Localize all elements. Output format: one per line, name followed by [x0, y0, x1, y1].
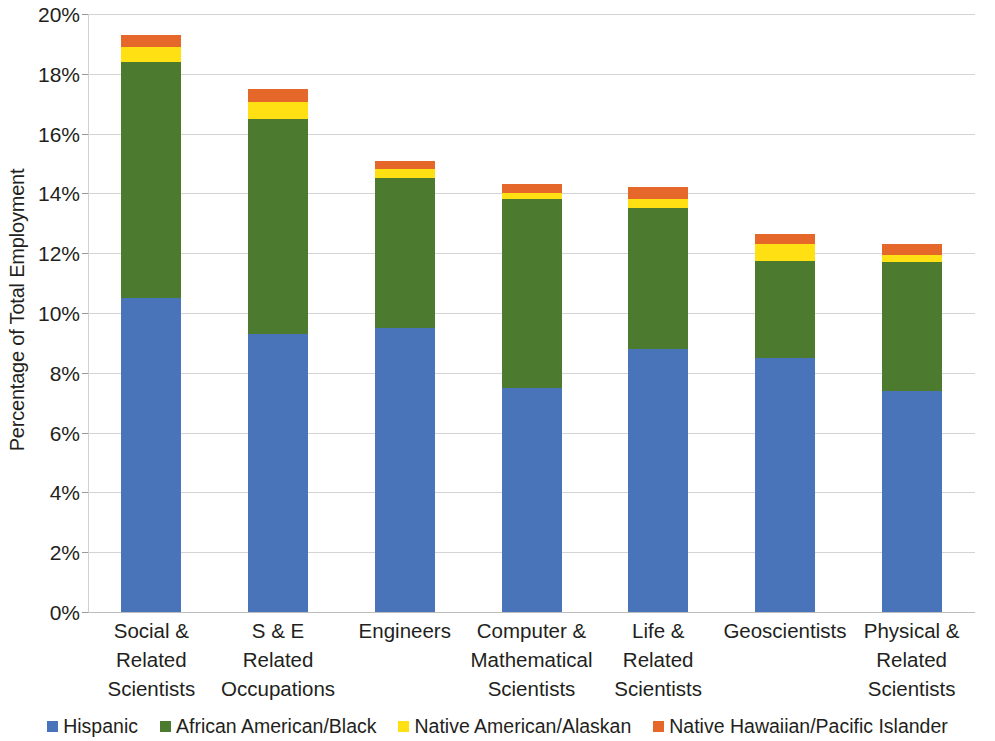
- bar-segment[interactable]: [121, 62, 181, 298]
- x-axis-label-line: Computer &: [468, 616, 595, 645]
- y-tick-label: 16%: [14, 123, 88, 144]
- bar-segment[interactable]: [502, 184, 562, 193]
- bar-group[interactable]: [628, 14, 688, 612]
- x-axis-label-line: Scientists: [88, 674, 215, 703]
- bar-segment[interactable]: [248, 89, 308, 102]
- x-axis-label-line: Mathematical: [468, 645, 595, 674]
- y-tick-label: 6%: [14, 422, 88, 443]
- bars-layer: [88, 14, 975, 612]
- bar-segment[interactable]: [375, 328, 435, 612]
- chart-legend: HispanicAfrican American/BlackNative Ame…: [0, 712, 995, 741]
- legend-item-label: Native Hawaiian/Pacific Islander: [669, 717, 948, 737]
- y-tick-label: 0%: [14, 602, 88, 623]
- bar-group[interactable]: [248, 14, 308, 612]
- bar-segment[interactable]: [628, 208, 688, 349]
- x-axis-label: S & ERelatedOccupations: [215, 616, 342, 703]
- legend-item-label: Hispanic: [63, 717, 138, 737]
- legend-swatch-african-american-black: [160, 721, 171, 732]
- bar-group[interactable]: [375, 14, 435, 612]
- legend-swatch-hispanic: [47, 721, 58, 732]
- x-axis-label: Computer &MathematicalScientists: [468, 616, 595, 703]
- bar-segment[interactable]: [121, 298, 181, 612]
- x-axis-label-line: Physical &: [848, 616, 975, 645]
- x-axis-label: Geoscientists: [722, 616, 849, 645]
- y-tick-label: 14%: [14, 183, 88, 204]
- bar-segment[interactable]: [882, 391, 942, 612]
- bar-stack: [755, 234, 815, 612]
- bar-segment[interactable]: [628, 199, 688, 208]
- bar-group[interactable]: [882, 14, 942, 612]
- bar-segment[interactable]: [755, 358, 815, 612]
- bar-segment[interactable]: [121, 47, 181, 62]
- bar-group[interactable]: [755, 14, 815, 612]
- bar-segment[interactable]: [628, 349, 688, 612]
- bar-group[interactable]: [121, 14, 181, 612]
- bar-group[interactable]: [502, 14, 562, 612]
- bar-segment[interactable]: [882, 255, 942, 262]
- y-axis-ticks: 0%2%4%6%8%10%12%14%16%18%20%: [0, 14, 88, 612]
- y-tick-label: 2%: [14, 542, 88, 563]
- bar-segment[interactable]: [755, 234, 815, 244]
- bar-segment[interactable]: [248, 334, 308, 612]
- gridline-0%: [88, 612, 975, 613]
- bar-segment[interactable]: [375, 161, 435, 170]
- y-tick-label: 10%: [14, 303, 88, 324]
- y-tick-label: 18%: [14, 63, 88, 84]
- y-tick-label: 8%: [14, 362, 88, 383]
- x-axis-label-line: Related: [595, 645, 722, 674]
- bar-stack: [502, 184, 562, 612]
- legend-item-label: African American/Black: [176, 717, 377, 737]
- x-axis-label-line: Geoscientists: [722, 616, 849, 645]
- bar-segment[interactable]: [248, 119, 308, 334]
- x-axis-label-line: Scientists: [468, 674, 595, 703]
- legend-item[interactable]: African American/Black: [160, 717, 377, 737]
- x-axis-label: Engineers: [341, 616, 468, 645]
- bar-segment[interactable]: [121, 35, 181, 47]
- x-axis-label-line: Life &: [595, 616, 722, 645]
- bar-stack: [121, 35, 181, 612]
- legend-item[interactable]: Native American/Alaskan: [398, 717, 631, 737]
- bar-segment[interactable]: [882, 244, 942, 254]
- bar-segment[interactable]: [375, 169, 435, 178]
- legend-item[interactable]: Hispanic: [47, 717, 138, 737]
- legend-swatch-native-american-alaskan: [398, 721, 409, 732]
- bar-stack: [375, 161, 435, 612]
- bar-segment[interactable]: [248, 102, 308, 118]
- y-tick-label: 4%: [14, 482, 88, 503]
- x-axis-label-line: Occupations: [215, 674, 342, 703]
- legend-item-label: Native American/Alaskan: [414, 717, 631, 737]
- legend-swatch-native-hawaiian-pacific-islander: [653, 721, 664, 732]
- bar-segment[interactable]: [375, 178, 435, 328]
- x-axis-label-line: Related: [848, 645, 975, 674]
- x-axis-label-line: Engineers: [341, 616, 468, 645]
- x-axis-label-line: Related: [88, 645, 215, 674]
- bar-segment[interactable]: [502, 199, 562, 387]
- y-tick-label: 20%: [14, 4, 88, 25]
- bar-stack: [882, 244, 942, 612]
- x-axis-label-line: S & E: [215, 616, 342, 645]
- x-axis-label-line: Scientists: [848, 674, 975, 703]
- bar-segment[interactable]: [882, 262, 942, 391]
- x-axis-label-line: Social &: [88, 616, 215, 645]
- x-axis-label-line: Related: [215, 645, 342, 674]
- x-axis-label: Social &RelatedScientists: [88, 616, 215, 703]
- x-axis-labels: Social &RelatedScientistsS & ERelatedOcc…: [88, 616, 975, 706]
- bar-stack: [248, 89, 308, 612]
- bar-segment[interactable]: [755, 244, 815, 260]
- x-axis-label: Physical &RelatedScientists: [848, 616, 975, 703]
- bar-stack: [628, 187, 688, 612]
- y-tick-mark: [82, 612, 88, 613]
- bar-segment[interactable]: [502, 388, 562, 612]
- bar-segment[interactable]: [628, 187, 688, 199]
- x-axis-label: Life &RelatedScientists: [595, 616, 722, 703]
- y-tick-label: 12%: [14, 243, 88, 264]
- legend-item[interactable]: Native Hawaiian/Pacific Islander: [653, 717, 948, 737]
- bar-segment[interactable]: [755, 261, 815, 358]
- x-axis-label-line: Scientists: [595, 674, 722, 703]
- stacked-bar-chart: Percentage of Total Employment 0%2%4%6%8…: [0, 0, 995, 741]
